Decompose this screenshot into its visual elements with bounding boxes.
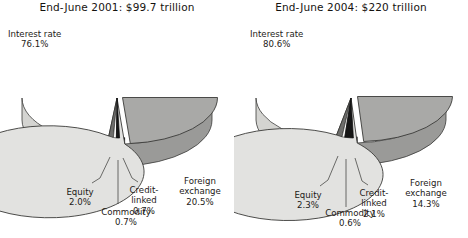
label-foreign-exchange-value-2001: 20.5%	[186, 197, 213, 207]
label-equity-value-2004: 2.3%	[297, 200, 319, 210]
label-credit-linked-value-2001: 0.7%	[133, 206, 155, 216]
label-interest-rate-value-2004: 80.6%	[250, 39, 303, 49]
label-equity-name-2001: Equity	[66, 187, 93, 197]
otc-derivatives-pie-figure: End-June 2001: $99.7 trillion	[0, 0, 468, 238]
label-foreign-exchange-line1-2001: Foreign	[184, 176, 216, 186]
label-foreign-exchange-value-2004: 14.3%	[412, 199, 439, 209]
label-equity-name-2004: Equity	[294, 190, 321, 200]
label-foreign-exchange-line1-2004: Foreign	[410, 178, 442, 188]
label-credit-linked-value-2004: 2.1%	[363, 209, 385, 219]
label-interest-rate-value-2001: 76.1%	[8, 39, 61, 49]
label-interest-rate-2001: Interest rate 76.1%	[8, 29, 61, 50]
label-interest-rate-name-2004: Interest rate	[250, 29, 303, 39]
label-credit-linked-line2-2001: linked	[131, 195, 157, 205]
label-foreign-exchange-line2-2001: exchange	[179, 186, 221, 196]
label-interest-rate-name-2001: Interest rate	[8, 29, 61, 39]
label-credit-linked-line1-2004: Credit-	[360, 188, 389, 198]
panel-title-2004: End-June 2004: $220 trillion	[234, 1, 468, 13]
label-commodity-value-2001: 0.7%	[115, 217, 137, 227]
label-credit-linked-2004: Credit- linked 2.1%	[350, 188, 398, 219]
label-equity-2001: Equity 2.0%	[56, 187, 104, 208]
pie-panel-2001: End-June 2001: $99.7 trillion	[0, 0, 234, 238]
label-credit-linked-line1-2001: Credit-	[130, 185, 159, 195]
label-foreign-exchange-line2-2004: exchange	[405, 188, 447, 198]
label-credit-linked-2001: Credit- linked 0.7%	[120, 185, 168, 216]
label-credit-linked-line2-2004: linked	[361, 198, 387, 208]
label-interest-rate-2004: Interest rate 80.6%	[250, 29, 303, 50]
label-foreign-exchange-2001: Foreign exchange 20.5%	[170, 176, 230, 207]
pie-panel-2004: End-June 2004: $220 trillion	[234, 0, 468, 238]
label-commodity-value-2004: 0.6%	[339, 218, 361, 228]
label-foreign-exchange-2004: Foreign exchange 14.3%	[394, 178, 458, 209]
panel-title-2001: End-June 2001: $99.7 trillion	[0, 1, 234, 13]
label-equity-value-2001: 2.0%	[69, 197, 91, 207]
